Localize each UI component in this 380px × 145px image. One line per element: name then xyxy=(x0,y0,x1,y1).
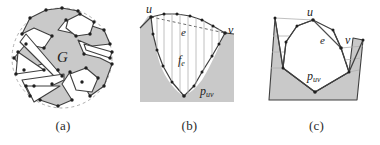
figure-root: G (a) xyxy=(0,0,380,145)
panel-a: G (a) xyxy=(0,0,126,145)
panel-a-drawing: G xyxy=(0,0,126,118)
panel-c-caption: (c) xyxy=(253,118,380,134)
graph-label-G: G xyxy=(57,49,68,65)
panel-a-caption: (a) xyxy=(0,118,126,134)
edge-label-e: e xyxy=(320,34,325,46)
panel-c-drawing: u v e puv xyxy=(253,0,380,118)
edge-label-e: e xyxy=(181,26,186,38)
vertex-label-u: u xyxy=(146,2,152,16)
panel-b: u v e fe puv (b) xyxy=(126,0,253,145)
panel-c: u v e puv (c) xyxy=(253,0,380,145)
vertex-label-v: v xyxy=(228,23,234,37)
vertex-label-v: v xyxy=(345,33,351,47)
panel-b-caption: (b) xyxy=(126,118,253,134)
vertex-label-u: u xyxy=(307,5,313,19)
panel-b-drawing: u v e fe puv xyxy=(126,0,253,118)
